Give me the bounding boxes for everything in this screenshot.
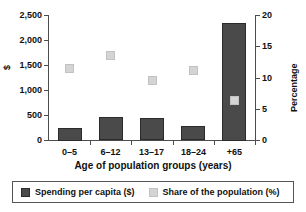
legend-item-share: Share of the population (%)	[149, 187, 280, 197]
marker-share-of-population	[148, 76, 157, 85]
x-axis-tick-label: +65	[214, 147, 255, 157]
x-axis-title: Age of population groups (years)	[0, 160, 306, 171]
y-axis-right-tick-label: 15	[262, 42, 272, 51]
x-axis-tick-label: 13–17	[131, 147, 172, 157]
y-axis-right-tick-label: 0	[262, 136, 267, 145]
y-axis-left-tick-label: 2,000	[19, 36, 42, 45]
y-axis-left-tick-label: 500	[27, 111, 42, 120]
y-axis-left-tick-label: 0	[37, 136, 42, 145]
x-axis-tick	[214, 141, 215, 145]
y-axis-left-tick-label: 2,500	[19, 11, 42, 20]
y-axis-right-tick-label: 20	[262, 11, 272, 20]
legend-swatch-share-icon	[149, 188, 158, 197]
y-axis-right-tick	[256, 109, 260, 110]
x-axis-tick	[131, 141, 132, 145]
y-axis-left-tick	[44, 115, 48, 116]
chart-figure: $ Percentage Age of population groups (y…	[0, 0, 306, 212]
marker-share-of-population	[230, 96, 239, 105]
y-axis-right-tick-label: 5	[262, 105, 267, 114]
y-axis-right-tick-label: 10	[262, 74, 272, 83]
bar-spending-per-capita	[99, 117, 123, 140]
y-axis-left-title: $	[2, 65, 12, 70]
legend-label-share: Share of the population (%)	[163, 187, 280, 197]
y-axis-right-tick	[256, 15, 260, 16]
marker-share-of-population	[106, 51, 115, 60]
y-axis-left-tick	[44, 15, 48, 16]
y-axis-left-tick-label: 1,000	[19, 86, 42, 95]
bar-spending-per-capita	[140, 118, 164, 140]
y-axis-left-tick-label: 1,500	[19, 61, 42, 70]
x-axis-tick-label: 18–24	[173, 147, 214, 157]
y-axis-left-tick	[44, 90, 48, 91]
chart-legend: Spending per capita ($) Share of the pop…	[12, 181, 294, 203]
y-axis-left-line	[48, 15, 49, 141]
x-axis-tick	[173, 141, 174, 145]
x-axis-tick	[90, 141, 91, 145]
legend-swatch-spending-icon	[21, 188, 30, 197]
bar-spending-per-capita	[222, 23, 246, 141]
y-axis-right-tick	[256, 46, 260, 47]
legend-item-spending: Spending per capita ($)	[21, 187, 135, 197]
marker-share-of-population	[189, 66, 198, 75]
x-axis-tick	[255, 141, 256, 145]
y-axis-left-tick	[44, 140, 48, 141]
legend-label-spending: Spending per capita ($)	[35, 187, 135, 197]
marker-share-of-population	[65, 64, 74, 73]
x-axis-tick-label: 0–5	[49, 147, 90, 157]
bar-spending-per-capita	[181, 126, 205, 140]
y-axis-left-tick	[44, 65, 48, 66]
y-axis-left-tick	[44, 40, 48, 41]
x-axis-tick-label: 6–12	[90, 147, 131, 157]
bar-spending-per-capita	[58, 128, 82, 141]
y-axis-right-title: Percentage	[289, 63, 299, 112]
y-axis-right-tick	[256, 78, 260, 79]
y-axis-right-tick	[256, 140, 260, 141]
